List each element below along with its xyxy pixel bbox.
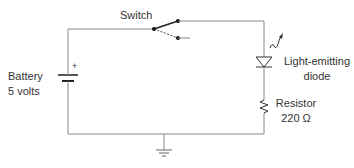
led-label-line2: diode — [282, 70, 352, 83]
switch-symbol[interactable] — [152, 19, 190, 40]
circuit-diagram: + — [0, 0, 354, 168]
battery-plus-sign: + — [72, 61, 77, 71]
battery-label-line2: 5 volts — [8, 85, 43, 98]
resistor-symbol — [260, 100, 268, 113]
battery-label-line1: Battery — [8, 70, 43, 83]
led-label-line1: Light-emitting — [282, 55, 352, 68]
wire-top-right — [178, 21, 264, 57]
light-emission-icon — [270, 36, 281, 48]
led-symbol — [256, 33, 283, 100]
led-label: Light-emitting diode — [282, 55, 352, 83]
switch-label: Switch — [120, 9, 152, 22]
wire-left-bottom — [68, 81, 264, 134]
wire-top-left — [68, 29, 154, 67]
resistor-label-line2: 220 Ω — [273, 112, 319, 125]
ground-symbol — [156, 134, 172, 156]
resistor-label: Resistor 220 Ω — [273, 97, 319, 125]
resistor-label-line1: Resistor — [273, 97, 319, 110]
battery-label: Battery 5 volts — [8, 70, 43, 98]
